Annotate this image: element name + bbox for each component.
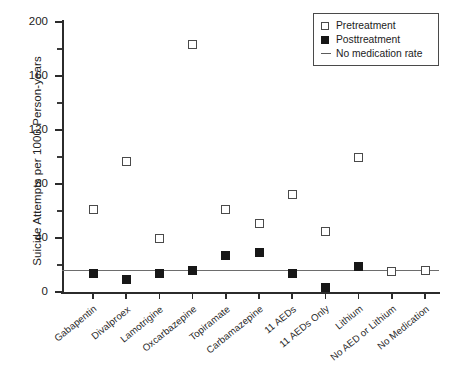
y-tick-major [55, 75, 62, 77]
no-medication-reference-line [62, 270, 439, 272]
y-tick-major [55, 237, 62, 239]
filled-square-icon [321, 36, 334, 44]
x-tick-label: Carbamazepine [204, 303, 265, 355]
x-tick [424, 292, 426, 299]
y-tick-label: 0 [0, 286, 48, 298]
y-tick-minor [57, 264, 62, 265]
open-square-icon [321, 22, 334, 30]
x-tick [258, 292, 260, 299]
legend-item-no-medication-rate: No medication rate [321, 47, 432, 60]
legend-label-pretreatment: Pretreatment [334, 20, 396, 31]
data-point-posttreatment [288, 269, 297, 278]
y-tick-label: 80 [0, 178, 48, 190]
x-axis-line [61, 292, 440, 294]
data-point-posttreatment [255, 248, 264, 257]
data-point-posttreatment [122, 275, 131, 284]
data-point-pretreatment [354, 153, 363, 162]
data-point-pretreatment [387, 267, 396, 276]
y-tick-minor [57, 102, 62, 103]
legend-item-pretreatment: Pretreatment [321, 19, 432, 32]
data-point-posttreatment [188, 266, 197, 275]
data-point-pretreatment [288, 190, 297, 199]
x-tick [391, 292, 393, 299]
legend-item-posttreatment: Posttreatment [321, 33, 432, 46]
data-point-posttreatment [321, 283, 330, 292]
y-tick-major [55, 291, 62, 293]
legend-label-posttreatment: Posttreatment [334, 34, 400, 45]
x-tick [291, 292, 293, 299]
data-point-pretreatment [188, 40, 197, 49]
y-tick-label: 120 [0, 124, 48, 136]
x-tick [358, 292, 360, 299]
x-tick [325, 292, 327, 299]
y-tick-label: 160 [0, 70, 48, 82]
data-point-posttreatment [221, 251, 230, 260]
y-tick-minor [57, 156, 62, 157]
data-point-pretreatment [221, 205, 230, 214]
x-tick [159, 292, 161, 299]
data-point-pretreatment [122, 157, 131, 166]
data-point-pretreatment [89, 205, 98, 214]
y-tick-label: 40 [0, 232, 48, 244]
x-tick [92, 292, 94, 299]
y-axis-line [62, 20, 64, 294]
data-point-pretreatment [421, 266, 430, 275]
chart-legend: Pretreatment Posttreatment No medication… [313, 13, 439, 66]
x-tick [225, 292, 227, 299]
legend-label-no-medication-rate: No medication rate [334, 48, 422, 59]
y-tick-major [55, 21, 62, 23]
data-point-pretreatment [255, 219, 264, 228]
horizontal-line-icon [321, 53, 334, 55]
y-tick-minor [57, 48, 62, 49]
data-point-posttreatment [155, 269, 164, 278]
y-tick-label: 200 [0, 16, 48, 28]
data-point-posttreatment [89, 269, 98, 278]
data-point-pretreatment [155, 234, 164, 243]
x-tick [125, 292, 127, 299]
y-tick-major [55, 129, 62, 131]
data-point-pretreatment [321, 227, 330, 236]
data-point-posttreatment [354, 262, 363, 271]
y-tick-major [55, 183, 62, 185]
y-tick-minor [57, 210, 62, 211]
x-tick [192, 292, 194, 299]
suicide-attempts-scatter-chart: Suicide Attempts per 1000 Person-years 0… [0, 0, 449, 378]
